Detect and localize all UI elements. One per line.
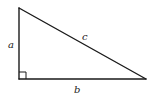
right-angle-marker (19, 72, 26, 79)
right-triangle-diagram: a b c (0, 0, 156, 98)
label-c: c (82, 31, 88, 42)
side-c-hypotenuse (19, 8, 146, 79)
label-b: b (74, 84, 80, 95)
label-a: a (8, 39, 14, 50)
